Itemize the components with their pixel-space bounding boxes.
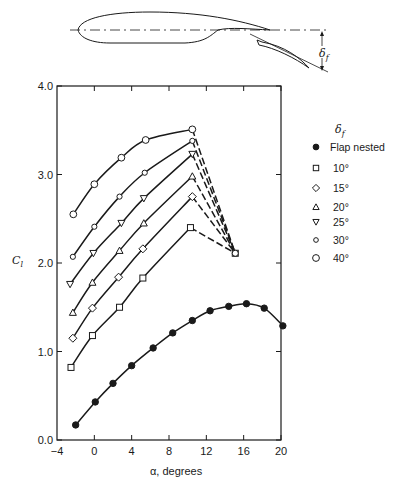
legend-item: 20° <box>313 201 349 213</box>
legend-title: δf <box>335 123 347 138</box>
circle-marker <box>91 181 98 188</box>
legend-item: 30° <box>314 234 349 246</box>
legend-label: Flap nested <box>330 141 385 153</box>
diamond-marker <box>69 334 77 342</box>
filled-circle-marker <box>280 323 286 329</box>
legend-item: 10° <box>313 162 349 174</box>
arrow-up-icon <box>320 31 324 36</box>
circle-marker <box>232 250 238 256</box>
legend-label: 25° <box>333 216 349 228</box>
plot-frame <box>57 86 281 440</box>
plot-area: −4048121620 0.01.02.03.04.0 <box>38 80 287 457</box>
triangle-down-marker <box>67 281 74 287</box>
series-line <box>73 197 192 339</box>
series-line <box>73 129 192 214</box>
filled-circle-marker <box>207 308 213 314</box>
stall-dashed-line <box>192 176 235 253</box>
y-axis-label: Cl <box>12 254 23 269</box>
series-line <box>73 141 192 257</box>
triangle-up-marker <box>189 173 196 179</box>
axis-ticks <box>57 86 281 440</box>
circle-marker <box>118 154 125 161</box>
small-circle-marker <box>92 224 97 229</box>
y-tick-label: 4.0 <box>38 80 53 92</box>
x-tick-label: 4 <box>129 445 135 457</box>
square-marker <box>68 364 74 370</box>
legend-item: Flap nested <box>313 141 385 153</box>
series-markers <box>67 126 286 428</box>
circle-marker <box>70 211 77 218</box>
square-marker <box>140 275 146 281</box>
square-marker <box>313 165 318 170</box>
filled-circle-marker <box>313 144 319 150</box>
small-circle-marker <box>70 254 75 259</box>
x-tick-label: 16 <box>238 445 250 457</box>
triangle-up-marker <box>313 204 319 210</box>
filled-circle-marker <box>150 345 156 351</box>
legend: δf Flap nested10°15°20°25°30°40° <box>312 123 385 264</box>
circle-marker <box>142 137 149 144</box>
y-tick-label: 0.0 <box>38 434 53 446</box>
x-tick-label: 20 <box>275 445 287 457</box>
legend-label: 15° <box>333 182 349 194</box>
square-marker <box>117 304 123 310</box>
diamond-marker <box>312 184 319 191</box>
filled-circle-marker <box>92 399 98 405</box>
figure: δf −4048121620 0.01.02.03.04.0 Cl α, deg… <box>0 0 393 486</box>
legend-label: 40° <box>333 252 349 264</box>
circle-marker <box>189 126 196 133</box>
legend-item: 25° <box>313 216 349 228</box>
filled-circle-marker <box>189 317 195 323</box>
x-tick-labels: −4048121620 <box>51 445 287 457</box>
filled-circle-marker <box>110 380 116 386</box>
flap-chord-line <box>250 34 328 72</box>
y-tick-label: 2.0 <box>38 257 53 269</box>
x-tick-label: 8 <box>166 445 172 457</box>
series-line <box>71 228 190 368</box>
square-marker <box>187 225 193 231</box>
filled-circle-marker <box>72 422 78 428</box>
small-circle-marker <box>190 138 195 143</box>
y-tick-labels: 0.01.02.03.04.0 <box>38 80 53 446</box>
flap-outline <box>257 40 309 68</box>
x-tick-label: −4 <box>51 445 64 457</box>
filled-circle-marker <box>243 301 249 307</box>
small-circle-marker <box>142 170 147 175</box>
filled-circle-marker <box>170 330 176 336</box>
small-circle-marker <box>117 194 122 199</box>
series-line <box>76 304 283 425</box>
x-tick-label: 12 <box>200 445 212 457</box>
legend-label: 10° <box>333 162 349 174</box>
small-circle-marker <box>314 238 319 243</box>
legend-label: 20° <box>333 201 349 213</box>
series-line <box>70 154 192 284</box>
series-lines <box>70 129 283 425</box>
filled-circle-marker <box>261 305 267 311</box>
filled-circle-marker <box>226 303 232 309</box>
airfoil-outline <box>78 12 270 43</box>
stall-dashed-line <box>192 129 235 253</box>
x-axis-label: α, degrees <box>150 465 203 477</box>
y-tick-label: 1.0 <box>38 346 53 358</box>
deflection-symbol: δf <box>319 47 331 62</box>
x-tick-label: 0 <box>91 445 97 457</box>
square-marker <box>89 333 95 339</box>
legend-item: 40° <box>313 252 349 264</box>
triangle-down-marker <box>313 219 319 225</box>
filled-circle-marker <box>128 362 134 368</box>
circle-marker <box>313 255 320 262</box>
legend-item: 15° <box>312 182 348 194</box>
airfoil-flap-diagram: δf <box>70 12 331 72</box>
y-tick-label: 3.0 <box>38 169 53 181</box>
legend-label: 30° <box>333 234 349 246</box>
